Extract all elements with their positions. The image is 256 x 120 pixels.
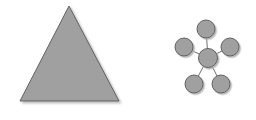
node-right (221, 38, 239, 56)
node-bottom-left (185, 75, 203, 93)
node-bottom-right (212, 75, 230, 93)
node-top (197, 20, 215, 38)
node-left (175, 38, 193, 56)
node-center (199, 49, 218, 68)
shapes-diagram (0, 0, 256, 120)
figure-canvas (0, 0, 256, 120)
